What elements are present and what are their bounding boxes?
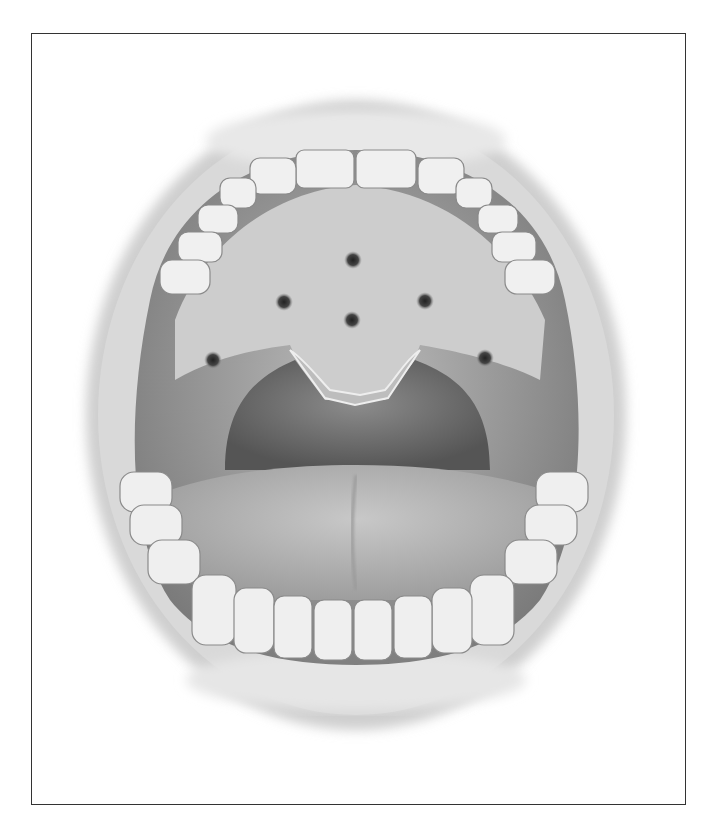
mouth-illustration	[0, 0, 706, 831]
